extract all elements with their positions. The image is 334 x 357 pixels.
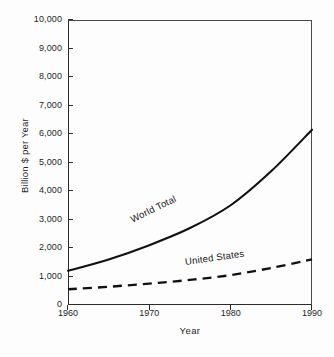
y-axis-tick-label: 9,000: [10, 43, 62, 53]
y-axis-tick: [68, 190, 73, 191]
y-axis-tick-label: 0: [10, 299, 62, 309]
y-axis-tick-label: 10,000: [10, 14, 62, 24]
y-axis-tick-label: 1,000: [10, 271, 62, 281]
y-axis-tick: [68, 219, 73, 220]
y-axis-tick: [68, 19, 73, 20]
x-axis-tick-label: 1970: [139, 308, 159, 318]
y-axis-tick: [68, 133, 73, 134]
y-axis-tick: [68, 48, 73, 49]
x-axis-title: Year: [68, 325, 312, 336]
y-axis-tick-label: 8,000: [10, 71, 62, 81]
y-axis-title: Billion $ per Year: [19, 96, 30, 216]
y-axis-tick: [68, 304, 73, 305]
y-axis-tick: [68, 247, 73, 248]
y-axis-tick: [68, 162, 73, 163]
y-axis-tick: [68, 76, 73, 77]
y-axis-tick-label: 2,000: [10, 242, 62, 252]
chart-figure: 01,0002,0003,0004,0005,0006,0007,0008,00…: [0, 0, 334, 357]
x-axis-tick-label: 1990: [302, 308, 322, 318]
x-axis-tick-label: 1980: [221, 308, 241, 318]
y-axis-tick: [68, 105, 73, 106]
y-axis-tick: [68, 276, 73, 277]
x-axis-tick-label: 1960: [58, 308, 78, 318]
